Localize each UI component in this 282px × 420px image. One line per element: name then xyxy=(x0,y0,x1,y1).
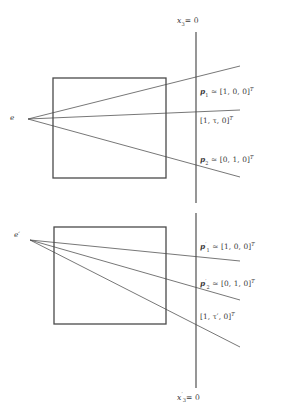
top-label-p2: p2 ≃ [0, 1, 0]T xyxy=(200,155,253,166)
bottom-label-p2-prime: p′2 ≃ [0, 1, 0]T xyxy=(200,279,255,290)
bottom-panel-group xyxy=(30,213,240,388)
bottom-plane-eq: = 0 xyxy=(186,393,200,402)
bottom-label-p1-relation: ≃ xyxy=(212,242,218,251)
top-label-tau: [1, τ, 0]T xyxy=(200,116,233,125)
bottom-ray-tau-prime xyxy=(30,240,240,347)
top-label-p1-sub: 1 xyxy=(205,92,208,98)
bottom-label-p2-sub: 2 xyxy=(207,284,210,290)
top-label-p2-sub: 2 xyxy=(205,160,208,166)
top-epipole-label: e xyxy=(10,114,14,121)
top-label-p1-relation: ≃ xyxy=(211,87,217,96)
top-plane-label: x3= 0 xyxy=(177,17,199,27)
bottom-label-p2-vector: [0, 1, 0] xyxy=(221,279,251,288)
top-label-p2-relation: ≃ xyxy=(211,155,217,164)
bottom-epipole-label: e′ xyxy=(14,231,20,238)
bottom-label-p1-vector: [1, 0, 0] xyxy=(221,242,251,251)
top-label-tau-sup: T xyxy=(230,115,233,121)
bottom-label-tau-prime: [1, τ′, 0]T xyxy=(200,312,235,321)
top-label-p2-sup: T xyxy=(250,154,253,160)
top-label-p1-sup: T xyxy=(250,86,253,92)
top-plane-eq: = 0 xyxy=(185,16,199,25)
bottom-plane-label: x′3= 0 xyxy=(177,392,200,403)
top-label-p1-vector: [1, 0, 0] xyxy=(220,87,250,96)
bottom-label-p2-sup: T xyxy=(251,278,254,284)
figure-container: x3= 0 e p1 ≃ [1, 0, 0]T [1, τ, 0]T p2 ≃ … xyxy=(0,0,282,420)
epipolar-geometry-diagram xyxy=(0,0,282,420)
bottom-label-tau-vector: [1, τ′, 0] xyxy=(200,312,231,321)
bottom-label-p1-sub: 1 xyxy=(207,247,210,253)
bottom-label-p2-relation: ≃ xyxy=(212,279,218,288)
top-label-p1: p1 ≃ [1, 0, 0]T xyxy=(200,87,253,98)
top-ray-p2 xyxy=(28,119,240,177)
top-label-p2-vector: [0, 1, 0] xyxy=(220,155,250,164)
bottom-image-rectangle xyxy=(54,227,166,324)
bottom-label-tau-sup: T xyxy=(231,311,234,317)
bottom-label-p1-prime: p′1 ≃ [1, 0, 0]T xyxy=(200,242,255,253)
bottom-label-p1-sup: T xyxy=(251,241,254,247)
top-label-tau-vector: [1, τ, 0] xyxy=(200,116,230,125)
top-image-rectangle xyxy=(53,78,166,178)
